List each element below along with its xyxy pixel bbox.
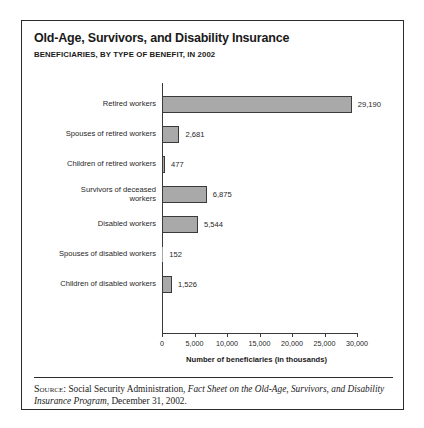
bar-row: Children of retired workers477 [22, 149, 405, 179]
x-tick-label: 10,000 [216, 339, 238, 348]
bar-row: Survivors of deceasedworkers6,875 [22, 179, 405, 209]
bar [162, 156, 165, 173]
x-tick [292, 333, 293, 337]
bar-category-label: Children of retired workers [22, 159, 161, 168]
bar [162, 96, 352, 113]
x-axis-title: Number of beneficiaries (in thousands) [22, 355, 405, 364]
x-tick [195, 333, 196, 337]
bar-value-label: 1,526 [178, 280, 197, 289]
bar-value-label: 29,190 [358, 100, 381, 109]
x-tick-label: 30,000 [346, 339, 368, 348]
bar-category-label: Disabled workers [22, 219, 161, 228]
bar-row: Disabled workers5,544 [22, 209, 405, 239]
chart-subtitle: BENEFICIARIES, BY TYPE OF BENEFIT, IN 20… [34, 50, 393, 59]
bar-row: Spouses of disabled workers152 [22, 239, 405, 269]
bar-container: 152 [162, 239, 182, 269]
x-tick-label: 5,000 [186, 339, 204, 348]
x-tick-label: 25,000 [314, 339, 336, 348]
x-tick-label: 15,000 [249, 339, 271, 348]
x-tick [357, 333, 358, 337]
bar-value-label: 152 [169, 250, 182, 259]
bar-row: Retired workers29,190 [22, 89, 405, 119]
source-text-before: Social Security Administration, [66, 384, 188, 394]
bar [162, 246, 163, 263]
bar-category-label: Spouses of retired workers [22, 129, 161, 138]
source-label: Source: [34, 383, 66, 394]
bar-row: Spouses of retired workers2,681 [22, 119, 405, 149]
source-divider [34, 377, 393, 378]
bar-category-label: Spouses of disabled workers [22, 249, 161, 258]
bar [162, 276, 172, 293]
bar [162, 216, 198, 233]
plot-area: Retired workers29,190Spouses of retired … [22, 83, 405, 333]
chart-title: Old-Age, Survivors, and Disability Insur… [34, 31, 393, 45]
bar-category-label: Survivors of deceasedworkers [22, 185, 161, 203]
bar-category-label: Children of disabled workers [22, 279, 161, 288]
x-tick [260, 333, 261, 337]
source-note: Source: Social Security Administration, … [34, 383, 393, 407]
bar-container: 2,681 [162, 119, 204, 149]
bar-value-label: 477 [171, 160, 184, 169]
x-tick-label: 20,000 [281, 339, 303, 348]
source-text-after: , December 31, 2002. [107, 396, 187, 406]
bar-container: 6,875 [162, 179, 232, 209]
bar [162, 126, 179, 143]
x-tick [227, 333, 228, 337]
bar [162, 186, 207, 203]
bar-container: 477 [162, 149, 184, 179]
bar-value-label: 6,875 [213, 190, 232, 199]
chart-heading: Old-Age, Survivors, and Disability Insur… [34, 31, 393, 59]
x-tick [325, 333, 326, 337]
bar-container: 1,526 [162, 269, 197, 299]
bar-container: 29,190 [162, 89, 381, 119]
bar-value-label: 5,544 [204, 220, 223, 229]
chart-figure: Old-Age, Survivors, and Disability Insur… [21, 20, 404, 410]
bar-category-label: Retired workers [22, 99, 161, 108]
x-tick [162, 333, 163, 337]
x-tick-label: 0 [160, 339, 164, 348]
bar-value-label: 2,681 [185, 130, 204, 139]
bar-row: Children of disabled workers1,526 [22, 269, 405, 299]
bar-container: 5,544 [162, 209, 223, 239]
